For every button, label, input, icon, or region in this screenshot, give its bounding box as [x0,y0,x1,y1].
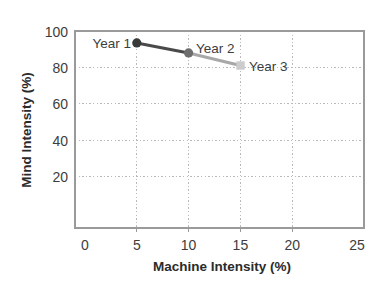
y-tick-label-40: 40 [52,133,68,149]
x-axis-tick-marks [137,228,292,232]
x-tick-label-15: 15 [233,237,249,253]
line-chart: Year 1 Year 2 Year 3 100 80 60 40 20 0 5… [0,0,389,286]
y-tick-label-100: 100 [45,24,69,40]
y-tick-label-80: 80 [52,60,68,76]
data-label-year-2: Year 2 [196,41,235,56]
data-point-year-3[interactable] [236,61,244,69]
x-tick-label-10: 10 [181,237,197,253]
chart-container: Year 1 Year 2 Year 3 100 80 60 40 20 0 5… [0,0,389,286]
y-tick-label-20: 20 [52,169,68,185]
data-point-year-2[interactable] [184,48,193,57]
x-tick-label-25: 25 [349,237,365,253]
data-label-year-1: Year 1 [92,36,131,51]
x-tick-label-5: 5 [133,237,141,253]
x-tick-label-0: 0 [81,237,89,253]
y-axis-title: Mind Intensity (%) [19,72,34,188]
x-axis-title: Machine Intensity (%) [153,259,291,274]
data-point-year-1[interactable] [132,38,141,47]
x-tick-label-20: 20 [284,237,300,253]
data-label-year-3: Year 3 [249,59,288,74]
y-tick-label-60: 60 [52,96,68,112]
